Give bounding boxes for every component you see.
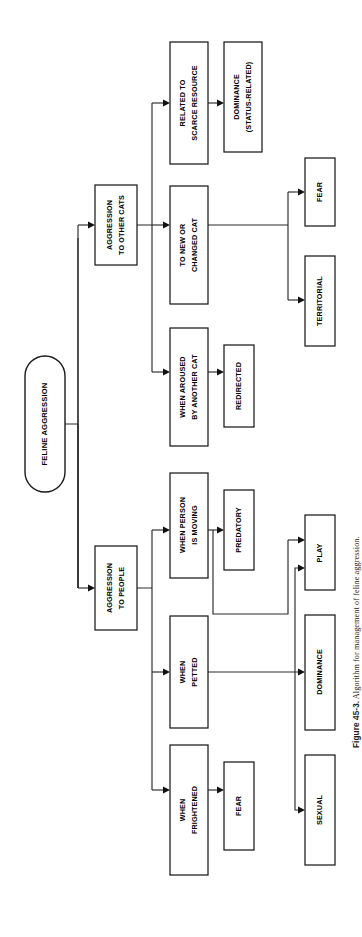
node-when-aroused-by-another-cat-label-2: BY ANOTHER CAT — [190, 354, 199, 420]
node-when-petted-label-2: PETTED — [190, 657, 199, 686]
figure-caption: Figure 45-3. Algorithm for management of… — [352, 536, 361, 748]
node-territorial-label: TERRITORIAL — [315, 276, 324, 326]
arrowhead-to-fear-people — [217, 787, 224, 794]
arrowhead-to-predatory — [217, 527, 224, 534]
node-predatory-label: PREDATORY — [234, 507, 243, 553]
arrowhead-to-newcat — [163, 222, 170, 229]
edge-newcat-junction — [208, 192, 288, 300]
node-redirected-label: REDIRECTED — [234, 362, 243, 410]
node-to-new-or-changed-cat-label-1: TO NEW OR — [178, 223, 187, 266]
node-sexual-label: SEXUAL — [315, 795, 324, 826]
node-aggression-to-other-cats[interactable]: AGGRESSION TO OTHER CATS — [95, 185, 137, 265]
node-related-to-scarce-resource-label-1: RELATED TO — [178, 79, 187, 126]
node-when-person-is-moving[interactable]: WHEN PERSON IS MOVING — [170, 473, 208, 578]
node-to-new-or-changed-cat[interactable]: TO NEW OR CHANGED CAT — [170, 186, 208, 304]
node-dominance-status-related[interactable]: DOMINANCE (STATUS-RELATED) — [224, 42, 262, 152]
node-sexual[interactable]: SEXUAL — [305, 755, 335, 865]
node-when-person-is-moving-label-2: IS MOVING — [190, 505, 199, 545]
node-related-to-scarce-resource[interactable]: RELATED TO SCARCE RESOURCE — [170, 42, 208, 164]
figure-caption-text: Algorithm for management of feline aggre… — [352, 536, 361, 699]
node-fear-cats-label: FEAR — [315, 181, 324, 202]
node-aggression-to-people[interactable]: AGGRESSION TO PEOPLE — [95, 546, 137, 630]
node-to-new-or-changed-cat-label-2: CHANGED CAT — [190, 217, 199, 272]
arrowhead-to-people — [88, 585, 95, 592]
node-aggression-to-other-cats-label-2: TO OTHER CATS — [117, 195, 126, 255]
node-fear-people-label: FEAR — [234, 795, 243, 816]
node-predatory[interactable]: PREDATORY — [224, 490, 254, 570]
edge-cats-spine — [137, 103, 152, 372]
arrowhead-to-fear-cats — [298, 189, 305, 196]
edge-people-spine — [137, 530, 152, 790]
edge-root-trunk — [65, 238, 78, 588]
arrowhead-to-play-b — [298, 565, 305, 572]
node-dominance-label: DOMINANCE — [315, 649, 324, 695]
node-territorial[interactable]: TERRITORIAL — [305, 256, 335, 346]
node-dominance[interactable]: DOMINANCE — [305, 615, 335, 730]
arrowhead-to-dominance-sr — [217, 100, 224, 107]
node-when-frightened[interactable]: WHEN FRIGHTENED — [170, 745, 208, 875]
node-play-label: PLAY — [315, 543, 324, 562]
arrowhead-to-cats — [88, 222, 95, 229]
flowchart-diagram: FELINE AGGRESSION AGGRESSION TO OTHER CA… — [0, 0, 362, 937]
arrowhead-to-sexual — [298, 807, 305, 814]
node-when-frightened-label-1: WHEN — [178, 799, 187, 822]
node-feline-aggression[interactable]: FELINE AGGRESSION — [25, 356, 65, 492]
node-redirected[interactable]: REDIRECTED — [224, 345, 254, 427]
figure-container: FELINE AGGRESSION AGGRESSION TO OTHER CA… — [0, 0, 362, 937]
node-related-to-scarce-resource-label-2: SCARCE RESOURCE — [190, 65, 199, 140]
node-when-petted[interactable]: WHEN PETTED — [170, 616, 208, 728]
arrowhead-to-dominance — [298, 669, 305, 676]
edge-petted-to-play — [295, 568, 300, 672]
node-play[interactable]: PLAY — [305, 515, 335, 590]
arrowhead-to-play-a — [298, 537, 305, 544]
node-aggression-to-other-cats-label-1: AGGRESSION — [105, 200, 114, 250]
node-aggression-to-people-label-1: AGGRESSION — [105, 563, 114, 613]
node-when-aroused-by-another-cat-label-1: WHEN AROUSED — [178, 356, 187, 417]
node-aggression-to-people-label-2: TO PEOPLE — [117, 567, 126, 609]
node-fear-cats[interactable]: FEAR — [305, 158, 335, 226]
arrowhead-to-petted — [163, 669, 170, 676]
node-when-petted-label-1: WHEN — [178, 661, 187, 684]
arrowhead-to-scarce — [163, 100, 170, 107]
node-when-person-is-moving-label-1: WHEN PERSON — [178, 497, 187, 553]
node-feline-aggression-label: FELINE AGGRESSION — [40, 383, 49, 466]
arrowhead-to-territorial — [298, 297, 305, 304]
node-fear-people[interactable]: FEAR — [224, 762, 254, 850]
node-when-frightened-label-2: FRIGHTENED — [190, 786, 199, 834]
arrowhead-to-redirected — [217, 369, 224, 376]
figure-caption-label: Figure 45-3. — [352, 701, 361, 748]
arrowhead-to-frightened — [163, 787, 170, 794]
node-dominance-status-related-label-2: (STATUS-RELATED) — [244, 61, 253, 132]
arrowhead-to-moving — [163, 527, 170, 534]
edge-frightened-to-sexual — [295, 672, 300, 810]
node-when-aroused-by-another-cat[interactable]: WHEN AROUSED BY ANOTHER CAT — [170, 328, 208, 446]
arrowhead-to-aroused — [163, 369, 170, 376]
node-dominance-status-related-label-1: DOMINANCE — [232, 74, 241, 120]
